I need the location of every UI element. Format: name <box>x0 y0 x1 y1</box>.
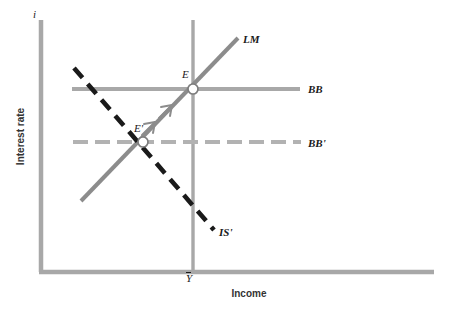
diagram-canvas <box>0 0 471 309</box>
x-axis-tick-label-ybar: Y <box>186 272 192 284</box>
lm-curve <box>81 38 238 201</box>
lm-curve-label: LM <box>243 33 260 45</box>
x-axis-label: Income <box>214 288 284 299</box>
point-e-marker <box>188 84 198 94</box>
bb-curve-label: BB <box>308 83 323 95</box>
ybar-overbar <box>186 272 191 273</box>
islm-bb-diagram: i Interest rate Income Y LM BB BB' IS' E… <box>0 0 471 309</box>
point-e-prime-marker <box>138 137 148 147</box>
is-prime-curve-label: IS' <box>219 226 232 238</box>
y-axis-symbol: i <box>33 8 36 20</box>
ybar-letter: Y <box>186 272 192 284</box>
point-e-label: E <box>182 68 189 80</box>
point-e-prime-label: E' <box>134 122 143 134</box>
bb-prime-curve-label: BB' <box>308 137 326 149</box>
y-axis-label: Interest rate <box>15 92 26 182</box>
